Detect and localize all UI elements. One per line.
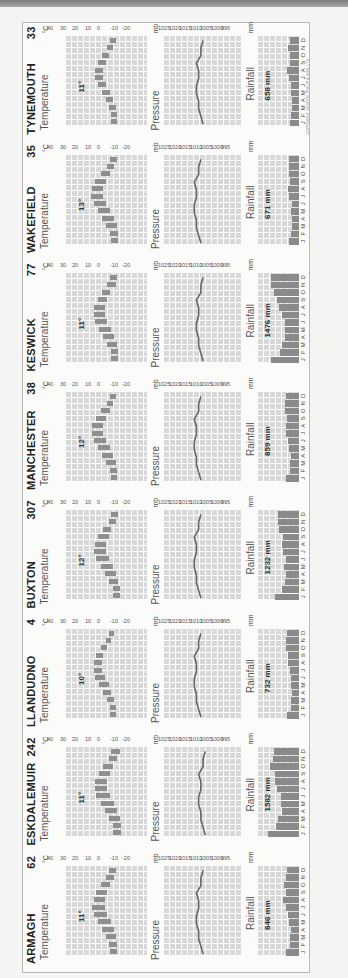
month-label: M — [300, 445, 306, 453]
rainfall-bar — [275, 594, 299, 601]
month-label: M — [300, 682, 306, 690]
month-label: F — [300, 704, 306, 712]
month-label: N — [300, 400, 306, 408]
month-label: J — [300, 238, 306, 246]
total-rainfall: 859 mm — [263, 426, 272, 456]
month-label: J — [300, 785, 306, 793]
month-axis: JFMAMJJASOND — [300, 274, 306, 364]
rainfall-bar — [281, 801, 299, 808]
rainfall-bar — [292, 97, 299, 104]
rainfall-bar — [292, 216, 299, 223]
rainfall-bar — [291, 927, 299, 934]
month-label: S — [300, 415, 306, 423]
rainfall-bar — [274, 289, 299, 296]
rainfall-bar — [288, 186, 299, 193]
month-label: D — [300, 37, 306, 45]
month-label: O — [300, 526, 306, 534]
station-panel: ARMAGH62Temperature°C403020100-10-2011°P… — [23, 853, 309, 970]
rainfall-unit: mm — [247, 496, 254, 508]
month-label: N — [300, 755, 306, 763]
month-label: O — [300, 644, 306, 652]
month-label: D — [300, 629, 306, 637]
rainfall-bar — [288, 912, 299, 919]
month-label: M — [300, 460, 306, 468]
month-label: J — [300, 793, 306, 801]
station-panel: KESWICK77Temperature°C403020100-10-2011°… — [23, 261, 309, 378]
rainfall-bar — [275, 778, 299, 785]
total-rainfall: 732 mm — [263, 663, 272, 693]
climate-chart-frame: ARMAGH62Temperature°C403020100-10-2011°P… — [22, 22, 310, 973]
total-rainfall: 1582 mm — [263, 777, 272, 811]
month-label: O — [300, 289, 306, 297]
month-label: A — [300, 215, 306, 223]
rainfall-bar — [291, 90, 299, 97]
rainfall-bar — [286, 874, 299, 881]
rainfall-bar — [287, 67, 299, 74]
month-label: N — [300, 637, 306, 645]
rainfall-bar — [278, 511, 299, 518]
rainfall-bar — [279, 304, 299, 311]
month-label: J — [300, 667, 306, 675]
rainfall-bar — [281, 793, 299, 800]
rainfall-unit: mm — [247, 259, 254, 271]
month-label: J — [300, 593, 306, 601]
rainfall-label: Rainfall — [245, 778, 256, 811]
month-label: J — [300, 475, 306, 483]
rainfall-bar — [277, 297, 299, 304]
rainfall-bar — [268, 831, 299, 838]
rainfall-bar — [291, 231, 299, 238]
rainfall-bar — [287, 415, 299, 422]
rainfall-bar — [287, 712, 299, 719]
month-label: J — [300, 430, 306, 438]
month-label: M — [300, 341, 306, 349]
rainfall-bar — [291, 453, 299, 460]
month-label: F — [300, 941, 306, 949]
rainfall-unit: mm — [247, 733, 254, 745]
month-label: M — [300, 578, 306, 586]
rainfall-bar — [284, 564, 299, 571]
month-label: A — [300, 452, 306, 460]
month-label: M — [300, 919, 306, 927]
rainfall-bar — [290, 468, 299, 475]
rainfall-bar — [285, 408, 299, 415]
total-rainfall: 671 mm — [263, 189, 272, 219]
rainfall-bar — [274, 748, 299, 755]
month-label: J — [300, 437, 306, 445]
rainfall-bar — [271, 357, 299, 364]
month-label: M — [300, 800, 306, 808]
rainfall-bar — [290, 667, 299, 674]
rainfall-bar — [286, 889, 299, 896]
month-label: M — [300, 563, 306, 571]
rainfall-bar — [286, 556, 299, 563]
month-label: A — [300, 896, 306, 904]
month-label: F — [300, 467, 306, 475]
station-panel: ESKDALEMUIR242Temperature°C403020100-10-… — [23, 735, 309, 852]
rainfall-bar — [290, 942, 299, 949]
month-label: S — [300, 533, 306, 541]
month-label: A — [300, 808, 306, 816]
rainfall-bar — [290, 934, 299, 941]
rainfall-bar — [292, 105, 299, 112]
month-label: O — [300, 407, 306, 415]
month-label: N — [300, 44, 306, 52]
month-label: A — [300, 659, 306, 667]
rainfall-bar — [286, 423, 299, 430]
month-label: M — [300, 815, 306, 823]
rainfall-bar — [286, 949, 299, 956]
month-label: J — [300, 319, 306, 327]
station-panel: TYNEMOUTH33Temperature°C403020100-10-201… — [23, 24, 309, 141]
rainfall-bar — [284, 882, 299, 889]
total-rainfall: 1476 mm — [263, 303, 272, 337]
rainfall-bar — [286, 475, 299, 482]
rainfall-bar — [279, 526, 299, 533]
rainfall-bar — [291, 682, 299, 689]
month-label: D — [300, 511, 306, 519]
month-label: D — [300, 274, 306, 282]
month-label: M — [300, 326, 306, 334]
month-axis: JFMAMJJASOND — [300, 155, 306, 245]
month-label: F — [300, 230, 306, 238]
rainfall-bar — [287, 630, 299, 637]
month-label: N — [300, 518, 306, 526]
month-label: M — [300, 208, 306, 216]
month-label: N — [300, 163, 306, 171]
